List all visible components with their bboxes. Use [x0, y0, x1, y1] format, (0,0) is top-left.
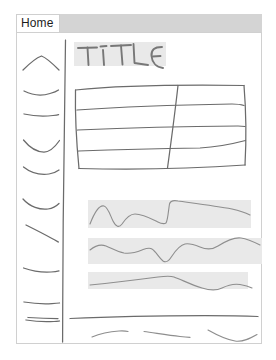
- paragraph-block-1-band: [88, 200, 251, 228]
- paragraph-block-2-band: [88, 238, 262, 264]
- browser-tab-bar: [58, 14, 262, 32]
- page-frame: [16, 32, 262, 344]
- browser-tab-label: Home: [21, 16, 53, 31]
- title-highlight-band: [74, 42, 166, 66]
- wireframe-canvas: Home: [0, 0, 276, 360]
- paragraph-block-3-band: [88, 272, 248, 289]
